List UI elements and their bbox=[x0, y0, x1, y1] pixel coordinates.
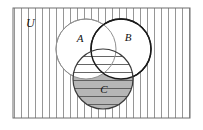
universe-label: U bbox=[26, 16, 36, 30]
set-c-label: C bbox=[100, 83, 108, 95]
shaded-region-c-minus-a-union-b bbox=[70, 46, 140, 116]
set-b-label: B bbox=[125, 31, 132, 43]
set-a-label: A bbox=[76, 32, 84, 44]
venn-diagram: U A B C bbox=[0, 0, 203, 130]
